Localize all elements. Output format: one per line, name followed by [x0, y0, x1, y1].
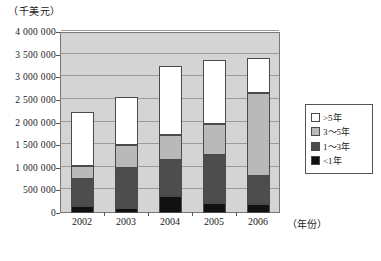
- bar-segment[interactable]: [247, 58, 270, 93]
- bar-stack[interactable]: [247, 32, 270, 213]
- y-axis-tick-label: 1 500 000: [15, 140, 56, 150]
- chart-legend: >5年3～5年1～3年<1年: [305, 104, 373, 174]
- y-axis: 0500 0001 000 0001 500 0002 000 0002 500…: [0, 32, 60, 214]
- bar-stack[interactable]: [71, 32, 94, 213]
- bar-segment[interactable]: [115, 168, 138, 208]
- chart-root: （千美元） 0500 0001 000 0001 500 0002 000 00…: [0, 0, 381, 261]
- y-axis-tick-label: 3 000 000: [15, 72, 56, 82]
- x-axis: 20022003200420052006: [60, 216, 280, 232]
- y-axis-unit-label: （千美元）: [8, 3, 61, 18]
- bar-segment[interactable]: [247, 204, 270, 213]
- gridline: [61, 30, 279, 31]
- legend-item-label: 1～3年: [323, 140, 350, 153]
- legend-item[interactable]: >5年: [311, 111, 368, 124]
- bar-segment[interactable]: [159, 135, 182, 160]
- x-axis-tick-label: 2004: [160, 216, 180, 227]
- bar-segment[interactable]: [71, 112, 94, 166]
- legend-swatch-icon: [311, 142, 320, 151]
- bar-segment[interactable]: [71, 179, 94, 206]
- legend-item[interactable]: 3～5年: [311, 125, 368, 138]
- bar-segment[interactable]: [247, 176, 270, 204]
- bar-segment[interactable]: [203, 203, 226, 213]
- bar-segment[interactable]: [159, 160, 182, 197]
- bar-segment[interactable]: [203, 124, 226, 155]
- bar-segment[interactable]: [115, 208, 138, 213]
- x-axis-tick-label: 2006: [248, 216, 268, 227]
- y-axis-tick-label: 500 000: [23, 185, 56, 195]
- bar-segment[interactable]: [159, 196, 182, 213]
- x-axis-title: （年份）: [287, 216, 327, 231]
- y-axis-tick-mark: [56, 213, 60, 214]
- bar-stack[interactable]: [159, 32, 182, 213]
- y-axis-tick-label: 2 000 000: [15, 118, 56, 128]
- legend-item[interactable]: 1～3年: [311, 140, 368, 153]
- legend-item-label: <1年: [323, 154, 342, 167]
- x-axis-tick-label: 2003: [116, 216, 136, 227]
- legend-swatch-icon: [311, 156, 320, 165]
- y-axis-tick-label: 2 500 000: [15, 95, 56, 105]
- legend-item[interactable]: <1年: [311, 154, 368, 167]
- legend-swatch-icon: [311, 113, 320, 122]
- bar-segment[interactable]: [203, 155, 226, 203]
- x-axis-tick-mark: [192, 212, 193, 216]
- bar-segment[interactable]: [203, 60, 226, 124]
- bar-segment[interactable]: [115, 97, 138, 145]
- bar-segment[interactable]: [71, 166, 94, 178]
- x-axis-tick-label: 2005: [204, 216, 224, 227]
- y-axis-tick-label: 4 000 000: [15, 27, 56, 37]
- bar-stack[interactable]: [115, 32, 138, 213]
- legend-item-label: >5年: [323, 111, 342, 124]
- x-axis-tick-mark: [104, 212, 105, 216]
- y-axis-tick-label: 1 000 000: [15, 163, 56, 173]
- bar-segment[interactable]: [247, 93, 270, 176]
- legend-swatch-icon: [311, 127, 320, 136]
- y-axis-tick-label: 3 500 000: [15, 50, 56, 60]
- bar-segment[interactable]: [115, 145, 138, 168]
- x-axis-tick-mark: [236, 212, 237, 216]
- bar-segment[interactable]: [71, 206, 94, 213]
- bar-segment[interactable]: [159, 66, 182, 134]
- x-axis-tick-mark: [148, 212, 149, 216]
- bar-stack[interactable]: [203, 32, 226, 213]
- bar-series-group: [60, 32, 280, 213]
- x-axis-tick-label: 2002: [72, 216, 92, 227]
- legend-item-label: 3～5年: [323, 125, 350, 138]
